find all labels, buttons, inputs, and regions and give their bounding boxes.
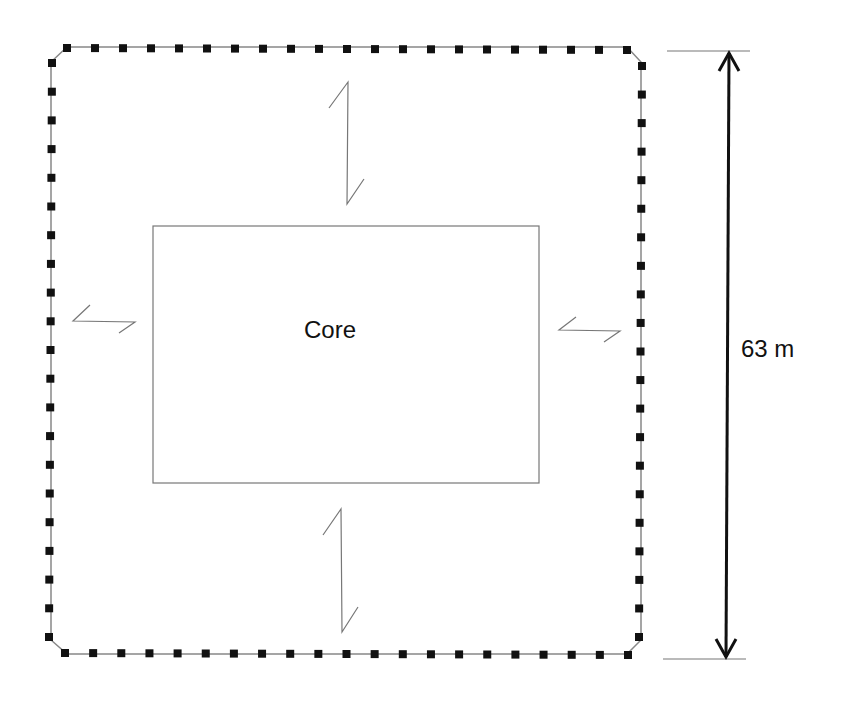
column-marker bbox=[637, 262, 645, 270]
column-marker bbox=[455, 45, 463, 53]
column-marker bbox=[286, 650, 294, 658]
column-marker bbox=[47, 346, 55, 354]
column-marker bbox=[46, 403, 54, 411]
column-marker bbox=[637, 176, 645, 184]
column-marker bbox=[371, 45, 379, 53]
core-label: Core bbox=[304, 316, 356, 344]
column-marker bbox=[230, 650, 238, 658]
column-marker bbox=[637, 233, 645, 241]
column-marker bbox=[175, 44, 183, 52]
column-marker bbox=[635, 604, 643, 612]
column-marker bbox=[511, 46, 519, 54]
column-marker bbox=[567, 46, 575, 54]
column-marker bbox=[636, 405, 644, 413]
column-marker bbox=[623, 46, 631, 54]
column-marker bbox=[595, 46, 603, 54]
column-marker bbox=[315, 45, 323, 53]
column-marker bbox=[637, 205, 645, 213]
column-marker bbox=[258, 650, 266, 658]
column-marker bbox=[511, 651, 519, 659]
column-marker bbox=[343, 45, 351, 53]
column-marker bbox=[47, 231, 55, 239]
column-marker bbox=[63, 44, 71, 52]
column-marker bbox=[343, 650, 351, 658]
bracing-arrow-left bbox=[73, 305, 135, 333]
column-marker bbox=[46, 461, 54, 469]
column-marker bbox=[259, 45, 267, 53]
column-marker bbox=[371, 650, 379, 658]
perimeter-outline bbox=[51, 47, 641, 654]
column-marker bbox=[314, 650, 322, 658]
core-box bbox=[153, 226, 539, 483]
perimeter-columns bbox=[45, 44, 646, 659]
column-marker bbox=[46, 375, 54, 383]
column-marker bbox=[48, 88, 56, 96]
column-marker bbox=[637, 319, 645, 327]
dimension-line bbox=[663, 51, 750, 659]
column-marker bbox=[399, 45, 407, 53]
column-marker bbox=[636, 519, 644, 527]
column-marker bbox=[636, 462, 644, 470]
column-marker bbox=[637, 290, 645, 298]
column-marker bbox=[483, 651, 491, 659]
column-marker bbox=[636, 433, 644, 441]
floor-plan-diagram bbox=[0, 0, 852, 703]
dimension-label: 63 m bbox=[741, 335, 794, 363]
column-marker bbox=[287, 45, 295, 53]
column-marker bbox=[635, 576, 643, 584]
column-marker bbox=[45, 604, 53, 612]
column-marker bbox=[231, 45, 239, 53]
column-marker bbox=[47, 174, 55, 182]
column-marker bbox=[539, 46, 547, 54]
column-marker bbox=[48, 59, 56, 67]
bracing-arrow-bottom bbox=[323, 509, 358, 632]
column-marker bbox=[91, 44, 99, 52]
column-marker bbox=[46, 432, 54, 440]
column-marker bbox=[638, 148, 646, 156]
column-marker bbox=[145, 649, 153, 657]
column-marker bbox=[45, 633, 53, 641]
column-marker bbox=[147, 44, 155, 52]
column-marker bbox=[174, 649, 182, 657]
column-marker bbox=[638, 91, 646, 99]
column-marker bbox=[638, 62, 646, 70]
column-marker bbox=[203, 45, 211, 53]
column-marker bbox=[635, 547, 643, 555]
column-marker bbox=[483, 46, 491, 54]
column-marker bbox=[89, 649, 97, 657]
column-marker bbox=[540, 651, 548, 659]
column-marker bbox=[427, 650, 435, 658]
column-marker bbox=[624, 651, 632, 659]
column-marker bbox=[636, 490, 644, 498]
column-marker bbox=[45, 547, 53, 555]
column-marker bbox=[568, 651, 576, 659]
column-marker bbox=[119, 44, 127, 52]
bracing-arrow-top bbox=[329, 82, 364, 204]
column-marker bbox=[455, 650, 463, 658]
column-marker bbox=[47, 317, 55, 325]
column-marker bbox=[47, 260, 55, 268]
column-marker bbox=[47, 203, 55, 211]
column-marker bbox=[45, 576, 53, 584]
column-marker bbox=[638, 119, 646, 127]
column-marker bbox=[636, 376, 644, 384]
column-marker bbox=[48, 116, 56, 124]
column-marker bbox=[399, 650, 407, 658]
column-marker bbox=[48, 145, 56, 153]
column-marker bbox=[46, 490, 54, 498]
column-marker bbox=[117, 649, 125, 657]
column-marker bbox=[427, 45, 435, 53]
column-marker bbox=[635, 633, 643, 641]
bracing-arrow-right bbox=[559, 317, 620, 342]
column-marker bbox=[47, 289, 55, 297]
column-marker bbox=[637, 348, 645, 356]
column-marker bbox=[202, 650, 210, 658]
column-marker bbox=[596, 651, 604, 659]
column-marker bbox=[61, 649, 69, 657]
column-marker bbox=[46, 518, 54, 526]
